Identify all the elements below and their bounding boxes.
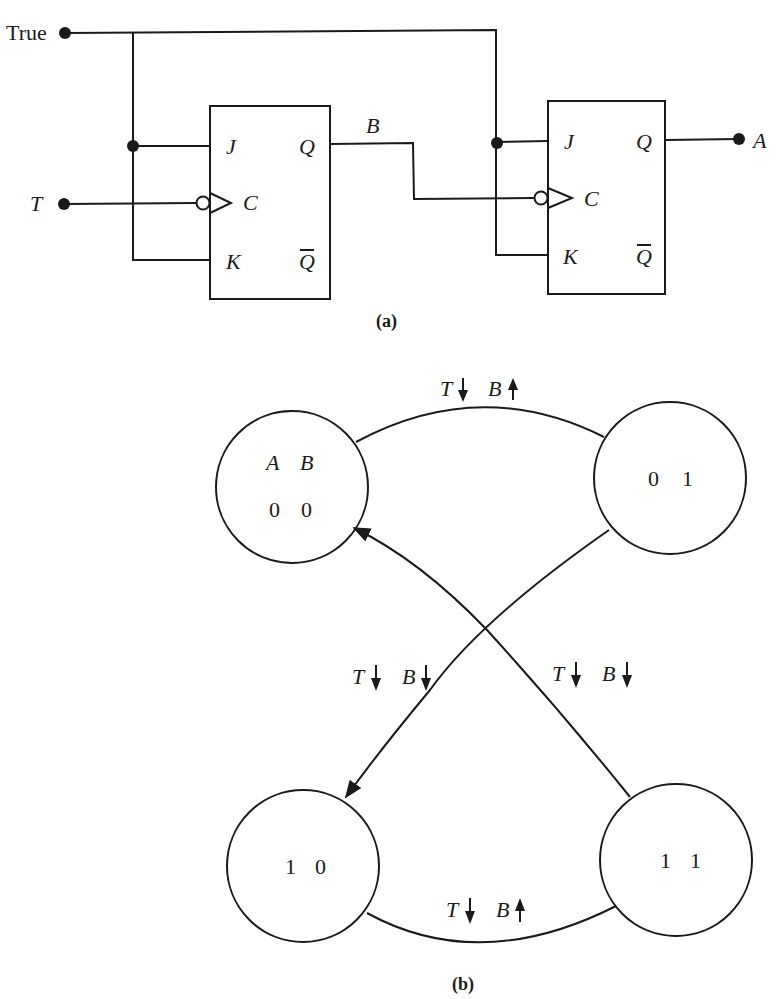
a-output-terminal <box>733 133 745 145</box>
ff2-junction-dot <box>491 137 503 149</box>
a-output-wire <box>665 139 739 140</box>
t-label: T <box>352 664 366 689</box>
caption-b: (b) <box>452 974 474 995</box>
state-00-b: 0 <box>301 497 312 522</box>
label-01-10: T B <box>352 664 431 691</box>
ff1-junction-dot <box>127 140 139 152</box>
circuit-schematic: True T J C K Q Q B <box>6 20 767 332</box>
true-input-label: True <box>6 20 47 45</box>
flip-flop-a: J C K Q Q <box>535 101 666 294</box>
falling-edge-icon <box>421 665 431 691</box>
state-11: 1 1 <box>600 784 752 936</box>
clock-input-label: T <box>30 191 44 216</box>
rising-edge-icon <box>515 898 525 922</box>
label-10-11: T B <box>446 897 525 924</box>
transition-00-01 <box>356 407 604 442</box>
ff1-clock-bubble <box>197 197 210 210</box>
b-label: B <box>496 897 509 922</box>
ff2-clock-bubble <box>535 192 548 205</box>
ff2-pin-j: J <box>564 129 575 154</box>
falling-edge-icon <box>622 662 632 688</box>
ff2-pin-qbar: Q <box>636 244 652 269</box>
state-header-b: B <box>300 450 313 475</box>
b-signal-wire <box>330 143 534 199</box>
caption-a: (a) <box>376 311 397 332</box>
flip-flop-b: J C K Q Q <box>197 106 331 299</box>
ff2-pin-q: Q <box>636 129 652 154</box>
falling-edge-icon <box>465 898 475 924</box>
ff2-pin-c: C <box>584 186 599 211</box>
state-10-a: 1 <box>285 854 296 879</box>
t-label: T <box>552 661 566 686</box>
falling-edge-icon <box>458 378 468 402</box>
label-11-00: T B <box>552 661 632 688</box>
b-signal-label: B <box>366 113 379 138</box>
state-diagram: A B 0 0 0 1 1 0 1 1 T <box>216 376 752 995</box>
label-00-01: T B <box>440 376 518 402</box>
ff2-j-wire <box>496 141 548 142</box>
state-header-a: A <box>264 450 280 475</box>
b-label: B <box>402 664 415 689</box>
ff1-pin-c: C <box>243 190 258 215</box>
ff1-pin-q: Q <box>299 134 315 159</box>
ff1-pin-j: J <box>226 134 237 159</box>
transition-11-00 <box>354 528 630 797</box>
transition-10-11 <box>367 906 616 942</box>
ff1-pin-qbar: Q <box>299 249 315 274</box>
t-label: T <box>440 376 454 401</box>
transition-01-10 <box>346 530 609 797</box>
state-01-a: 0 <box>648 466 659 491</box>
state-11-b: 1 <box>690 848 701 873</box>
falling-edge-icon <box>371 665 381 691</box>
t-label: T <box>446 897 460 922</box>
clock-wire <box>64 203 196 204</box>
state-00-a: 0 <box>269 497 280 522</box>
state-00: A B 0 0 <box>216 411 368 563</box>
a-output-label: A <box>751 128 767 153</box>
state-01-b: 1 <box>682 466 693 491</box>
state-11-a: 1 <box>660 848 671 873</box>
state-01: 0 1 <box>594 402 746 554</box>
rising-edge-icon <box>508 378 518 400</box>
ff1-pin-k: K <box>225 249 242 274</box>
state-10-b: 0 <box>315 854 326 879</box>
ff2-pin-k: K <box>562 244 579 269</box>
falling-edge-icon <box>571 662 581 688</box>
diagram-canvas: True T J C K Q Q B <box>0 0 784 999</box>
state-10: 1 0 <box>227 790 379 942</box>
b-label: B <box>602 661 615 686</box>
b-label: B <box>488 376 501 401</box>
